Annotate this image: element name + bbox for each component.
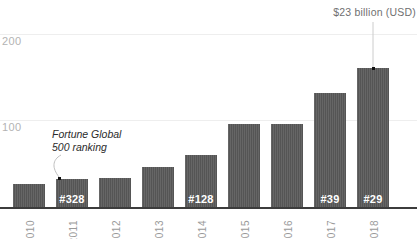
annotation-dot-2018 [372,67,375,70]
x-label-2012: 2012 [111,220,122,239]
bar-label-2017: #39 [314,193,346,205]
x-axis-labels: 2010 2011 2012 2013 2014 2015 2016 2017 … [0,208,417,239]
bar-2018[interactable]: #29 [357,68,389,208]
bar-2016[interactable] [271,124,303,208]
x-label-2010: 2010 [25,220,36,239]
fortune-ranking-note: Fortune Global 500 ranking [52,128,121,154]
annotation-dot-2011 [58,177,61,180]
bar-2010[interactable] [13,184,45,208]
bar-2014[interactable]: #128 [185,155,217,208]
bar-label-2014: #128 [185,193,217,205]
x-label-2014: 2014 [197,220,208,239]
bar-label-2011: #328 [56,193,88,205]
bar-chart: 200 100 #328 #128 #39 #29 2010 2011 2012… [0,0,417,239]
bar-2017[interactable]: #39 [314,93,346,208]
bar-2011[interactable]: #328 [56,179,88,208]
bar-2013[interactable] [142,167,174,208]
bar-2015[interactable] [228,124,260,208]
bar-2012[interactable] [99,178,131,208]
x-label-2015: 2015 [240,220,251,239]
x-label-2017: 2017 [326,220,337,239]
x-label-2018: 2018 [369,220,380,239]
bar-label-2018: #29 [357,193,389,205]
x-label-2016: 2016 [283,220,294,239]
x-label-2013: 2013 [154,220,165,239]
plot-area: #328 #128 #39 #29 [0,0,417,208]
x-label-2011: 2011 [68,220,79,239]
revenue-callout: $23 billion (USD) [333,6,416,18]
